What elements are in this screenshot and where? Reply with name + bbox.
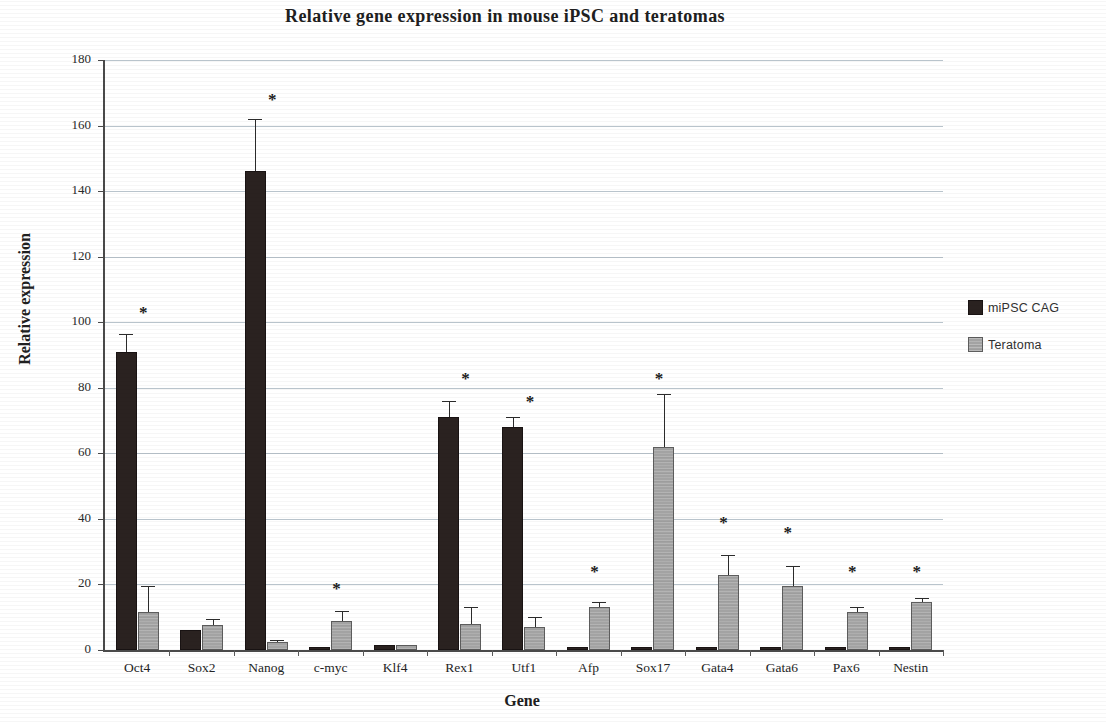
significance-asterisk-oct4: * xyxy=(136,304,150,321)
legend-label: miPSC CAG xyxy=(988,301,1059,315)
significance-asterisk-sox17: * xyxy=(652,370,666,387)
error-bar-stem xyxy=(513,417,514,427)
significance-asterisk-rex1: * xyxy=(459,370,473,387)
x-tick-label-gata6: Gata6 xyxy=(750,660,814,676)
bar-group xyxy=(363,60,427,650)
plot-area: 020406080100120140160180 Oct4Sox2Nanogc-… xyxy=(103,60,943,652)
y-tick-label: 20 xyxy=(49,575,91,591)
y-axis-title: Relative expression xyxy=(16,199,34,399)
legend-item-teratoma[interactable]: Teratoma xyxy=(968,337,1106,352)
x-tick-mark xyxy=(621,650,622,656)
x-tick-mark xyxy=(363,650,364,656)
error-bar-cap xyxy=(506,417,520,418)
bar-mipsc-cag-gata6[interactable] xyxy=(760,647,781,650)
error-bar-cap xyxy=(464,607,478,608)
x-tick-mark xyxy=(234,650,235,656)
bar-mipsc-cag-gata4[interactable] xyxy=(696,647,717,650)
error-bar-stem xyxy=(535,617,536,627)
legend-item-mipsc-cag[interactable]: miPSC CAG xyxy=(968,300,1106,315)
error-bar-cap xyxy=(206,619,220,620)
y-tick-label: 40 xyxy=(49,510,91,526)
bar-teratoma-oct4[interactable] xyxy=(138,612,159,650)
significance-asterisk-nestin: * xyxy=(910,563,924,580)
x-tick-mark xyxy=(427,650,428,656)
error-bar-stem xyxy=(793,566,794,586)
error-bar-stem xyxy=(148,586,149,612)
bar-group xyxy=(234,60,298,650)
y-tick-mark xyxy=(98,322,105,323)
bar-group xyxy=(105,60,169,650)
x-tick-label-nestin: Nestin xyxy=(879,660,943,676)
significance-asterisk-pax6: * xyxy=(845,563,859,580)
significance-asterisk-utf1: * xyxy=(523,393,537,410)
y-tick-mark xyxy=(98,60,105,61)
legend-swatch-icon xyxy=(968,300,983,315)
bar-mipsc-cag-nestin[interactable] xyxy=(889,647,910,650)
error-bar-cap xyxy=(721,555,735,556)
error-bar-cap xyxy=(119,334,133,335)
x-tick-mark xyxy=(298,650,299,656)
y-tick-label: 180 xyxy=(49,51,91,67)
x-tick-mark xyxy=(685,650,686,656)
bar-group xyxy=(814,60,878,650)
bar-mipsc-cag-oct4[interactable] xyxy=(116,352,137,650)
error-bar-cap xyxy=(442,401,456,402)
y-tick-mark xyxy=(98,126,105,127)
bar-mipsc-cag-sox2[interactable] xyxy=(180,630,201,650)
bar-teratoma-klf4[interactable] xyxy=(396,645,417,650)
y-tick-label: 100 xyxy=(49,313,91,329)
x-tick-mark xyxy=(943,650,944,656)
bar-teratoma-rex1[interactable] xyxy=(460,624,481,650)
bar-teratoma-nanog[interactable] xyxy=(267,642,288,650)
y-tick-label: 0 xyxy=(49,641,91,657)
error-bar-cap xyxy=(657,394,671,395)
error-bar-cap xyxy=(270,640,284,641)
error-bar-cap xyxy=(248,119,262,120)
bar-mipsc-cag-rex1[interactable] xyxy=(438,417,459,650)
y-tick-mark xyxy=(98,191,105,192)
y-tick-label: 80 xyxy=(49,379,91,395)
bar-teratoma-afp[interactable] xyxy=(589,607,610,650)
x-tick-label-rex1: Rex1 xyxy=(427,660,491,676)
bar-teratoma-gata6[interactable] xyxy=(782,586,803,650)
y-tick-label: 140 xyxy=(49,182,91,198)
bar-group xyxy=(879,60,943,650)
y-tick-mark xyxy=(98,650,105,651)
bar-mipsc-cag-utf1[interactable] xyxy=(502,427,523,650)
error-bar-cap xyxy=(786,566,800,567)
x-tick-label-sox17: Sox17 xyxy=(621,660,685,676)
x-tick-label-afp: Afp xyxy=(556,660,620,676)
x-tick-mark xyxy=(492,650,493,656)
bar-mipsc-cag-sox17[interactable] xyxy=(631,647,652,650)
bar-mipsc-cag-klf4[interactable] xyxy=(374,645,395,650)
x-tick-label-klf4: Klf4 xyxy=(363,660,427,676)
bar-group xyxy=(556,60,620,650)
bar-mipsc-cag-pax6[interactable] xyxy=(825,647,846,650)
bar-teratoma-utf1[interactable] xyxy=(524,627,545,650)
x-tick-label-c-myc: c-myc xyxy=(298,660,362,676)
bar-teratoma-sox17[interactable] xyxy=(653,447,674,650)
significance-asterisk-nanog: * xyxy=(265,91,279,108)
bar-mipsc-cag-c-myc[interactable] xyxy=(309,647,330,650)
x-tick-mark xyxy=(169,650,170,656)
legend-swatch-icon xyxy=(968,337,983,352)
bar-mipsc-cag-nanog[interactable] xyxy=(245,171,266,650)
x-tick-label-sox2: Sox2 xyxy=(169,660,233,676)
x-tick-mark xyxy=(814,650,815,656)
bar-teratoma-c-myc[interactable] xyxy=(331,621,352,650)
significance-asterisk-afp: * xyxy=(587,563,601,580)
bar-teratoma-pax6[interactable] xyxy=(847,612,868,650)
bar-teratoma-sox2[interactable] xyxy=(202,625,223,650)
chart-figure: Relative gene expression in mouse iPSC a… xyxy=(0,0,1106,722)
bar-teratoma-nestin[interactable] xyxy=(911,602,932,650)
y-tick-label: 160 xyxy=(49,117,91,133)
x-axis-title: Gene xyxy=(103,692,941,710)
error-bar-stem xyxy=(471,607,472,623)
significance-asterisk-gata6: * xyxy=(781,524,795,541)
error-bar-cap xyxy=(141,586,155,587)
bar-teratoma-gata4[interactable] xyxy=(718,575,739,650)
error-bar-stem xyxy=(664,394,665,446)
y-tick-mark xyxy=(98,257,105,258)
bar-group xyxy=(298,60,362,650)
bar-mipsc-cag-afp[interactable] xyxy=(567,647,588,650)
